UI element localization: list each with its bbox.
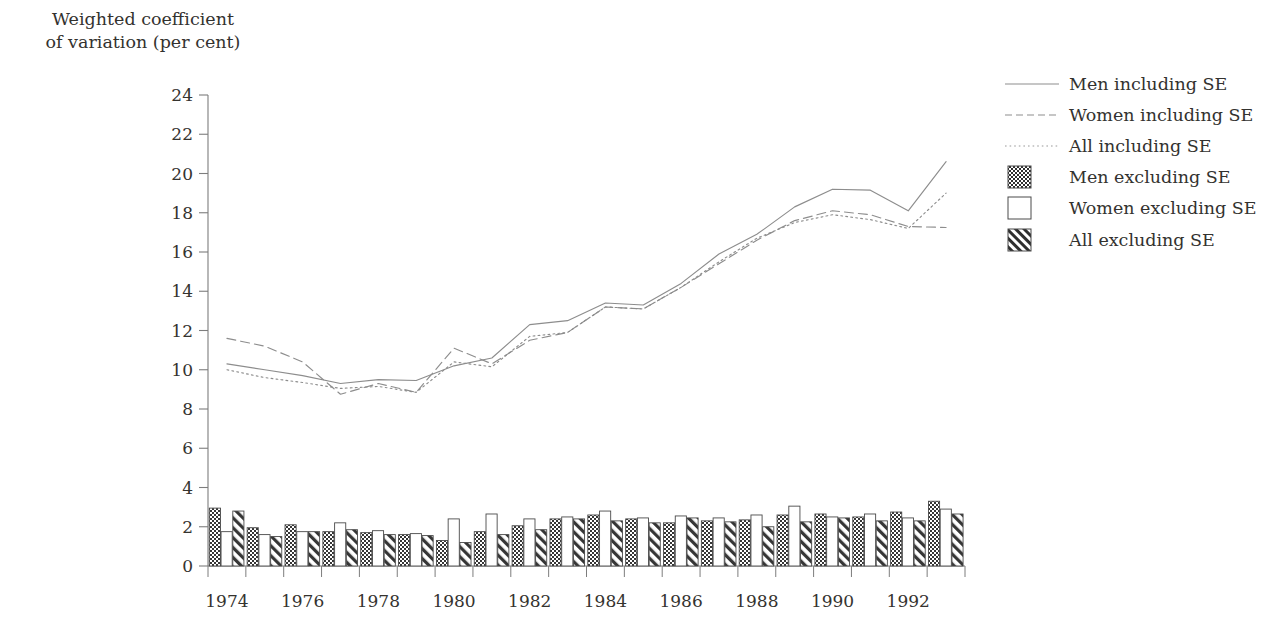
bar <box>626 519 637 566</box>
y-axis-tick-label: 20 <box>171 164 193 184</box>
y-axis-tick-label: 6 <box>182 438 193 458</box>
x-axis-tick-label: 1980 <box>432 591 475 611</box>
bar <box>675 516 686 566</box>
bar <box>512 526 523 566</box>
swatch-white-icon <box>1003 195 1065 221</box>
bar <box>588 515 599 566</box>
y-axis-tick-label: 12 <box>171 321 193 341</box>
swatch-checkerboard-icon <box>1003 164 1065 190</box>
bar <box>649 523 660 566</box>
x-axis-tick-label: 1992 <box>887 591 930 611</box>
swatch-diagonal-icon <box>1003 227 1065 253</box>
y-axis-tick-label: 0 <box>182 556 193 576</box>
bar <box>486 514 497 566</box>
chart-container: Weighted coefficient of variation (per c… <box>0 0 1274 644</box>
line-layer <box>227 162 946 395</box>
legend-label: All including SE <box>1065 136 1212 156</box>
bar <box>247 528 258 566</box>
bar <box>221 532 232 566</box>
bar <box>928 501 939 566</box>
bar <box>827 517 838 566</box>
y-axis-tick-label: 8 <box>182 399 193 419</box>
bar <box>474 532 485 566</box>
bar <box>297 532 308 566</box>
bar <box>562 517 573 566</box>
legend-item-men-excluding-se[interactable]: Men excluding SE <box>1003 162 1271 193</box>
y-axis-tick-label: 14 <box>171 281 193 301</box>
bar <box>399 535 410 566</box>
bar <box>914 521 925 566</box>
bar <box>902 518 913 566</box>
legend-item-all-including-se[interactable]: All including SE <box>1003 130 1271 161</box>
legend-item-men-including-se[interactable]: Men including SE <box>1003 68 1271 99</box>
x-axis-tick-label: 1988 <box>735 591 778 611</box>
x-axis-tick-label: 1984 <box>584 591 627 611</box>
data-line <box>227 211 946 394</box>
bar <box>209 508 220 566</box>
bar <box>952 514 963 566</box>
bar <box>536 530 547 566</box>
bar <box>725 522 736 566</box>
bar <box>940 509 951 566</box>
bar <box>611 521 622 566</box>
bar <box>550 519 561 566</box>
bar <box>600 511 611 566</box>
bar <box>838 518 849 566</box>
legend-label: All excluding SE <box>1065 230 1215 250</box>
legend-label: Women including SE <box>1065 105 1253 125</box>
bar-layer <box>209 501 963 566</box>
legend-label: Men including SE <box>1065 74 1227 94</box>
bar <box>573 519 584 566</box>
legend-label: Men excluding SE <box>1065 167 1231 187</box>
bar <box>801 522 812 566</box>
bar <box>410 534 421 566</box>
legend-item-women-excluding-se[interactable]: Women excluding SE <box>1003 193 1271 224</box>
data-line <box>227 193 946 392</box>
bar <box>687 518 698 566</box>
chart-legend: Men including SE Women including SE All … <box>1003 68 1271 255</box>
bar <box>891 512 902 566</box>
bar <box>664 523 675 566</box>
bar <box>285 525 296 566</box>
bar <box>713 518 724 566</box>
bar <box>524 519 535 566</box>
bar <box>763 527 774 566</box>
y-axis-tick-label: 2 <box>182 517 193 537</box>
bar <box>701 521 712 566</box>
bar <box>448 519 459 566</box>
x-axis-tick-label: 1990 <box>811 591 854 611</box>
bar <box>323 532 334 566</box>
data-line <box>227 162 946 384</box>
legend-item-all-excluding-se[interactable]: All excluding SE <box>1003 224 1271 255</box>
bar <box>271 537 282 566</box>
legend-label: Women excluding SE <box>1065 198 1257 218</box>
bar <box>422 536 433 566</box>
bar <box>361 533 372 566</box>
bar <box>346 530 357 566</box>
x-axis-tick-label: 1978 <box>357 591 400 611</box>
bar <box>777 515 788 566</box>
bar <box>865 514 876 566</box>
y-axis-tick-label: 22 <box>171 124 193 144</box>
bar <box>876 521 887 566</box>
line-solid-icon <box>1003 78 1065 90</box>
bar <box>751 515 762 566</box>
bar <box>789 506 800 566</box>
bar <box>372 531 383 566</box>
line-dashed-icon <box>1003 109 1065 121</box>
bar <box>436 540 447 566</box>
legend-item-women-including-se[interactable]: Women including SE <box>1003 99 1271 130</box>
y-axis-tick-label: 18 <box>171 203 193 223</box>
y-axis-tick-label: 24 <box>171 85 193 105</box>
y-axis-tick-label: 10 <box>171 360 193 380</box>
bar <box>739 520 750 566</box>
x-axis-tick-label: 1982 <box>508 591 551 611</box>
bar <box>853 517 864 566</box>
bar <box>815 514 826 566</box>
x-axis-tick-label: 1986 <box>659 591 702 611</box>
y-axis-tick-label: 16 <box>171 242 193 262</box>
x-axis-tick-label: 1976 <box>281 591 324 611</box>
y-axis-tick-label: 4 <box>182 478 193 498</box>
bar <box>637 518 648 566</box>
bar <box>460 542 471 566</box>
